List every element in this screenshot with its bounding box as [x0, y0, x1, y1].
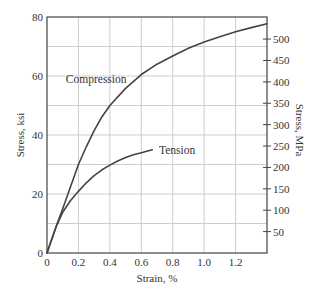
x-tick-label: 0.4	[103, 256, 117, 268]
grid	[47, 17, 267, 253]
y-tick-label-left: 40	[32, 129, 44, 141]
y-tick-label-right: 500	[273, 33, 290, 45]
y-tick-label-right: 400	[273, 76, 290, 88]
x-tick-label: 0.6	[134, 256, 148, 268]
y-tick-label-left: 20	[32, 188, 44, 200]
x-tick-label: 0.2	[72, 256, 86, 268]
x-tick-label: 0.8	[166, 256, 180, 268]
annotation-tension: Tension	[159, 144, 195, 156]
x-axis-title: Strain, %	[137, 272, 178, 284]
stress-strain-chart: 00.20.40.60.81.01.2020406080501001502002…	[0, 0, 319, 295]
y-tick-label-left: 80	[32, 11, 44, 23]
x-tick-label: 1.0	[197, 256, 211, 268]
curve-compression	[47, 24, 267, 253]
y-tick-label-right: 350	[273, 97, 290, 109]
y-tick-label-right: 100	[273, 204, 290, 216]
y-tick-label-right: 450	[273, 54, 290, 66]
y-tick-label-right: 300	[273, 119, 290, 131]
curves	[47, 24, 267, 253]
x-tick-label: 1.2	[229, 256, 243, 268]
y-axis-title-right: Stress, MPa	[294, 104, 306, 157]
y-tick-label-right: 200	[273, 161, 290, 173]
y-tick-label-right: 50	[273, 226, 285, 238]
y-tick-label-right: 250	[273, 140, 290, 152]
labels: 00.20.40.60.81.01.2020406080501001502002…	[32, 11, 290, 268]
y-tick-label-left: 0	[38, 247, 44, 259]
y-tick-label-right: 150	[273, 183, 290, 195]
x-tick-label: 0	[44, 256, 50, 268]
y-tick-label-left: 60	[32, 70, 44, 82]
curve-tension	[47, 150, 152, 253]
y-axis-title-left: Stress, ksi	[14, 113, 26, 158]
annotation-compression: Compression	[66, 73, 127, 86]
